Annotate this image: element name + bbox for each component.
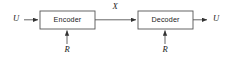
decoder-randomness-label-r: R: [161, 44, 168, 54]
channel-signal-label-x: X: [111, 1, 118, 11]
diagram-canvas: Encoder Decoder U X U R R: [0, 0, 229, 63]
output-signal-label-u: U: [213, 13, 220, 23]
input-signal-label-u: U: [13, 13, 20, 23]
encoder-randomness-label-r: R: [63, 44, 70, 54]
encoder-block-label: Encoder: [54, 15, 82, 24]
decoder-block-label: Decoder: [151, 15, 180, 24]
block-diagram-figure: Encoder Decoder U X U R R: [0, 0, 229, 63]
